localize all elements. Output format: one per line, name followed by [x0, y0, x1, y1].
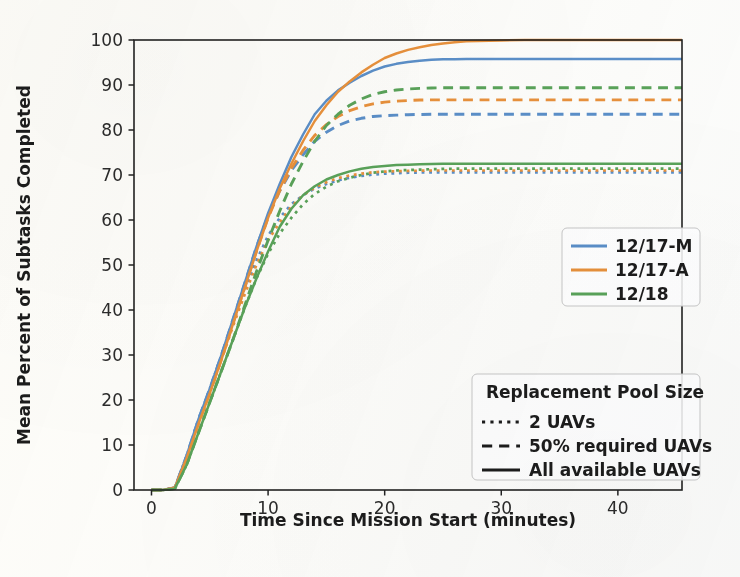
- y-tick-label: 30: [101, 345, 123, 365]
- y-tick-label: 50: [101, 255, 123, 275]
- y-tick-label: 80: [101, 120, 123, 140]
- y-tick-label: 90: [101, 75, 123, 95]
- y-tick-label: 40: [101, 300, 123, 320]
- legend-entry-label[interactable]: 50% required UAVs: [529, 436, 712, 456]
- y-tick-label: 10: [101, 435, 123, 455]
- y-tick-label: 100: [91, 30, 123, 50]
- y-tick-label: 0: [112, 480, 123, 500]
- y-tick-label: 70: [101, 165, 123, 185]
- line-chart: 0102030400102030405060708090100 Time Sin…: [0, 0, 740, 577]
- legend-entry-label[interactable]: 12/18: [615, 284, 669, 304]
- y-tick-label: 20: [101, 390, 123, 410]
- pool-legend[interactable]: Replacement Pool Size2 UAVs50% required …: [472, 374, 712, 480]
- legend-entry-label[interactable]: 2 UAVs: [529, 412, 595, 432]
- dataset-legend[interactable]: 12/17-M12/17-A12/18: [562, 228, 700, 306]
- y-axis-title: Mean Percent of Subtasks Completed: [14, 85, 34, 445]
- legend-entry-label[interactable]: 12/17-M: [615, 236, 693, 256]
- x-tick-label: 0: [146, 498, 157, 518]
- legend-entry-label[interactable]: All available UAVs: [529, 460, 701, 480]
- y-tick-label: 60: [101, 210, 123, 230]
- x-axis-title: Time Since Mission Start (minutes): [240, 510, 576, 530]
- x-tick-label: 40: [607, 498, 629, 518]
- chart-figure: 0102030400102030405060708090100 Time Sin…: [0, 0, 740, 577]
- legend-entry-label[interactable]: 12/17-A: [615, 260, 690, 280]
- pool-legend-title: Replacement Pool Size: [486, 382, 704, 402]
